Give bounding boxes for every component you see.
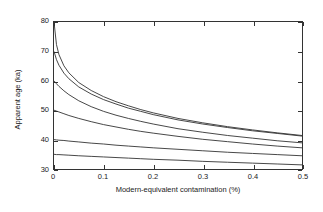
y-axis-label: Apparent age (ka) (13, 45, 22, 155)
x-axis-label: Modern-equivalent contamination (%) (53, 185, 303, 194)
x-tick (204, 22, 205, 26)
x-tick-label: 0.1 (98, 172, 108, 181)
y-tick (298, 170, 302, 171)
curve-line (54, 154, 302, 165)
x-tick (254, 22, 255, 26)
y-tick (54, 170, 58, 171)
y-tick (298, 52, 302, 53)
y-tick (54, 82, 58, 83)
plot-area (53, 21, 303, 170)
y-tick (54, 22, 58, 23)
y-tick (298, 141, 302, 142)
x-tick (254, 165, 255, 169)
curve-line (54, 140, 302, 156)
x-tick (154, 22, 155, 26)
y-tick (298, 22, 302, 23)
x-tick-label: 0.2 (148, 172, 158, 181)
y-tick (54, 52, 58, 53)
x-tick (204, 165, 205, 169)
x-tick-label: 0.3 (198, 172, 208, 181)
x-tick-label: 0.5 (298, 172, 308, 181)
curve-line (54, 22, 302, 135)
figure-container: 00.10.20.30.40.5 304050607080 Modern-equ… (0, 0, 323, 212)
curves-svg (54, 22, 302, 169)
curve-line (54, 51, 302, 136)
x-tick-label: 0.4 (248, 172, 258, 181)
x-tick (303, 165, 304, 169)
x-tick (154, 165, 155, 169)
y-tick (298, 111, 302, 112)
x-tick (104, 22, 105, 26)
x-tick-label: 0 (51, 172, 55, 181)
x-tick (54, 165, 55, 169)
x-tick (104, 165, 105, 169)
y-tick (54, 141, 58, 142)
x-tick (303, 22, 304, 26)
y-tick (54, 111, 58, 112)
y-tick (298, 82, 302, 83)
